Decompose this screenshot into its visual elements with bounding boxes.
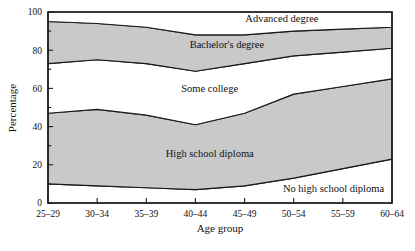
x-axis-tick-labels: 25–2930–3435–3940–4445–4950–5455–5960–64	[36, 209, 404, 219]
band-label-advanced-degree: Advanced degree	[245, 13, 319, 24]
y-axis-title: Percentage	[6, 84, 18, 132]
band-label-high-school-diploma: High school diploma	[166, 148, 254, 159]
x-tick-label: 60–64	[380, 209, 404, 219]
y-tick-label: 0	[37, 198, 42, 208]
stacked-area-chart: 020406080100 25–2930–3435–3940–4445–4950…	[0, 0, 415, 251]
figure-caption	[0, 237, 415, 251]
band-label-bachelor-s-degree: Bachelor's degree	[190, 39, 265, 50]
figure-container: 020406080100 25–2930–3435–3940–4445–4950…	[0, 0, 415, 251]
y-tick-label: 40	[33, 122, 43, 132]
x-tick-label: 35–39	[134, 209, 158, 219]
band-label-no-high-school-diploma: No high school diploma	[283, 183, 385, 194]
y-tick-label: 20	[33, 160, 43, 170]
x-tick-label: 25–29	[36, 209, 60, 219]
y-tick-label: 100	[28, 7, 43, 17]
band-label-some-college: Some college	[181, 83, 238, 94]
x-tick-label: 30–34	[85, 209, 109, 219]
x-axis-title: Age group	[197, 222, 244, 234]
y-tick-label: 80	[33, 46, 43, 56]
x-tick-label: 55–59	[331, 209, 355, 219]
y-axis-tick-labels: 020406080100	[28, 7, 43, 208]
x-tick-label: 40–44	[184, 209, 208, 219]
x-tick-label: 50–54	[282, 209, 306, 219]
y-tick-label: 60	[33, 84, 43, 94]
x-tick-label: 45–49	[233, 209, 257, 219]
